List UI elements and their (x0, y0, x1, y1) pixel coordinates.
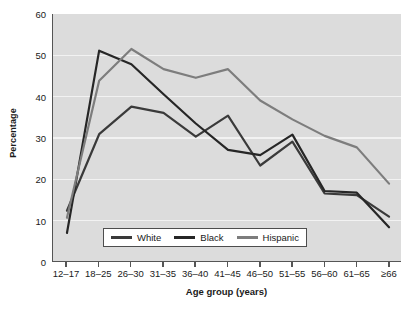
x-axis-tick-mark (162, 262, 164, 267)
legend-swatch-icon (111, 236, 132, 239)
y-axis-tick-label: 40 (35, 91, 46, 102)
legend-label: Hispanic (263, 232, 299, 243)
legend-item-white[interactable]: White (111, 232, 161, 243)
x-axis-tick-label: 46–50 (247, 268, 273, 279)
x-axis-tick-marks (52, 262, 401, 267)
series-line-white (67, 107, 389, 217)
y-axis-tick-label: 30 (35, 133, 46, 144)
legend-item-black[interactable]: Black (174, 232, 223, 243)
x-axis-tick-label: 26–30 (117, 268, 143, 279)
legend-swatch-icon (237, 236, 258, 239)
x-axis-tick-mark (356, 262, 358, 267)
x-axis-tick-label: ≥66 (381, 268, 397, 279)
y-axis-tick-label: 20 (35, 174, 46, 185)
y-axis-tick-label: 50 (35, 50, 46, 61)
x-axis-tick-mark (259, 262, 261, 267)
x-axis-tick-label: 41–45 (214, 268, 240, 279)
y-axis-tick-label: 0 (41, 257, 46, 268)
x-axis-tick-mark (227, 262, 229, 267)
chart-legend: WhiteBlackHispanic (103, 228, 307, 247)
y-axis-title: Percentage (2, 0, 24, 265)
x-axis-title: Age group (years) (52, 286, 401, 297)
legend-swatch-icon (174, 236, 195, 239)
x-axis-tick-mark (388, 262, 390, 267)
x-axis-tick-label: 12–17 (53, 268, 79, 279)
legend-item-hispanic[interactable]: Hispanic (237, 232, 299, 243)
x-axis-tick-mark (130, 262, 132, 267)
x-axis-tick-label: 51–55 (279, 268, 305, 279)
x-axis-tick-labels: 12–1718–2526–3031–3536–4041–4546–5051–55… (52, 268, 401, 282)
y-axis-tick-labels: 0102030405060 (24, 14, 50, 262)
x-axis-tick-mark (324, 262, 326, 267)
series-container (53, 14, 401, 261)
x-axis-tick-label: 56–60 (311, 268, 337, 279)
x-axis-tick-mark (98, 262, 100, 267)
y-axis-title-label: Percentage (8, 108, 18, 158)
x-axis-tick-label: 36–40 (182, 268, 208, 279)
x-axis-tick-mark (65, 262, 67, 267)
x-axis-tick-label: 61–65 (343, 268, 369, 279)
line-chart: Percentage 0102030405060 12–1718–2526–30… (0, 0, 411, 309)
x-axis-tick-mark (291, 262, 293, 267)
legend-label: White (137, 232, 161, 243)
y-axis-tick-label: 60 (35, 9, 46, 20)
plot-area (52, 14, 401, 262)
legend-label: Black (200, 232, 223, 243)
x-axis-tick-label: 18–25 (85, 268, 111, 279)
y-axis-tick-label: 10 (35, 215, 46, 226)
x-axis-tick-mark (194, 262, 196, 267)
x-axis-tick-label: 31–35 (150, 268, 176, 279)
